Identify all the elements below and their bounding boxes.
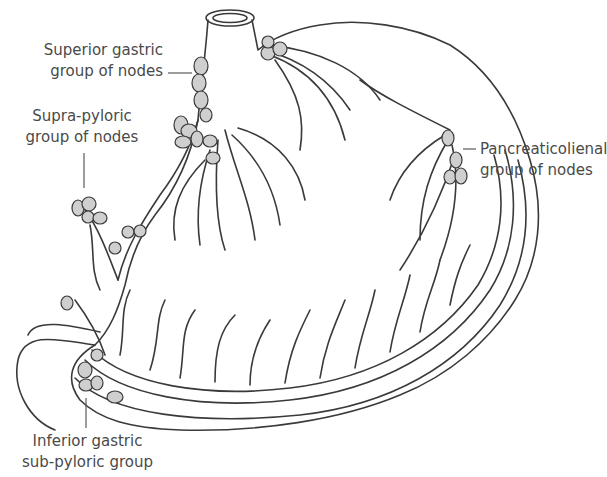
node-superior-1 [194, 57, 208, 75]
label-superior-gastric: Superior gastric group of nodes [40, 40, 163, 82]
label-pancreaticolienal: Pancreaticolienal group of nodes [480, 139, 607, 181]
label-superior-gastric-line2: group of nodes [40, 61, 163, 82]
label-supra-pyloric-line2: group of nodes [22, 127, 142, 148]
label-pancreaticolienal-line2: group of nodes [480, 160, 607, 181]
label-pancreaticolienal-line1: Pancreaticolienal [480, 139, 607, 160]
label-inferior-gastric-line1: Inferior gastric [20, 431, 155, 452]
label-inferior-gastric-line2: sub-pyloric group [20, 452, 155, 473]
node-inferior-1 [78, 362, 92, 378]
label-superior-gastric-line1: Superior gastric [40, 40, 163, 61]
node-pancreaticolienal-1 [442, 130, 454, 146]
label-inferior-gastric: Inferior gastric sub-pyloric group [20, 431, 155, 473]
label-supra-pyloric-line1: Supra-pyloric [22, 106, 142, 127]
label-supra-pyloric: Supra-pyloric group of nodes [22, 106, 142, 148]
